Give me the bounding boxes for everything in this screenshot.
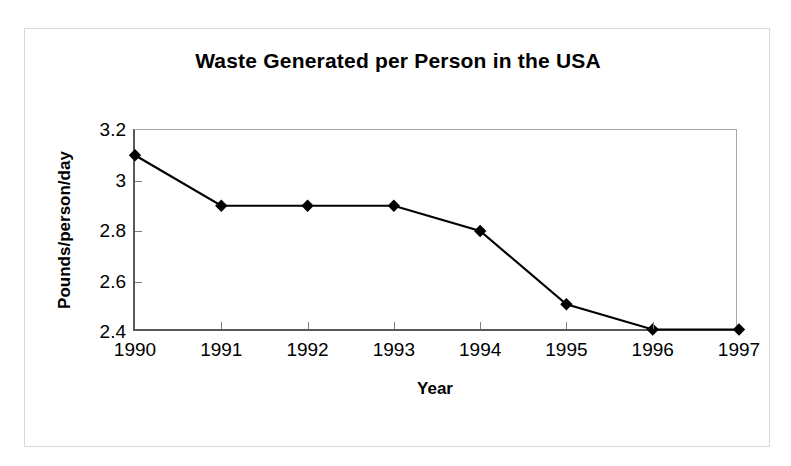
x-axis-tick-label: 1995 [545, 339, 587, 361]
data-point-marker [215, 200, 227, 212]
data-point-marker [129, 149, 141, 161]
x-axis-tick [653, 322, 654, 329]
data-point-marker [474, 225, 486, 237]
x-axis-tick-label: 1994 [459, 339, 501, 361]
chart-title: Waste Generated per Person in the USA [25, 49, 771, 73]
data-point-marker [301, 200, 313, 212]
x-axis-tick [308, 322, 309, 329]
series-line-chart [135, 130, 739, 332]
x-axis-tick-label: 1992 [286, 339, 328, 361]
y-axis-tick-label: 3.2 [100, 119, 126, 141]
x-axis-title: Year [133, 379, 737, 399]
data-point-marker [733, 323, 745, 335]
y-axis-tick [135, 282, 142, 283]
x-axis-tick [221, 322, 222, 329]
x-axis-tick-label: 1993 [373, 339, 415, 361]
series-line [135, 155, 739, 329]
data-point-marker [560, 298, 572, 310]
y-axis-tick [135, 231, 142, 232]
data-point-marker [388, 200, 400, 212]
x-axis-tick [394, 322, 395, 329]
x-axis-tick-label: 1997 [718, 339, 760, 361]
y-axis-tick-label: 3 [115, 170, 126, 192]
plot-area: 2.42.62.833.2199019911992199319941995199… [133, 129, 737, 331]
chart-figure: Waste Generated per Person in the USA Po… [24, 28, 770, 447]
x-axis-tick-label: 1996 [632, 339, 674, 361]
x-axis-tick [480, 322, 481, 329]
y-axis-tick [135, 181, 142, 182]
x-axis-tick [566, 322, 567, 329]
x-axis-tick-label: 1990 [114, 339, 156, 361]
x-axis-tick-label: 1991 [200, 339, 242, 361]
y-axis-tick-label: 2.6 [100, 271, 126, 293]
y-axis-title: Pounds/person/day [53, 129, 77, 331]
y-axis-tick-label: 2.8 [100, 220, 126, 242]
